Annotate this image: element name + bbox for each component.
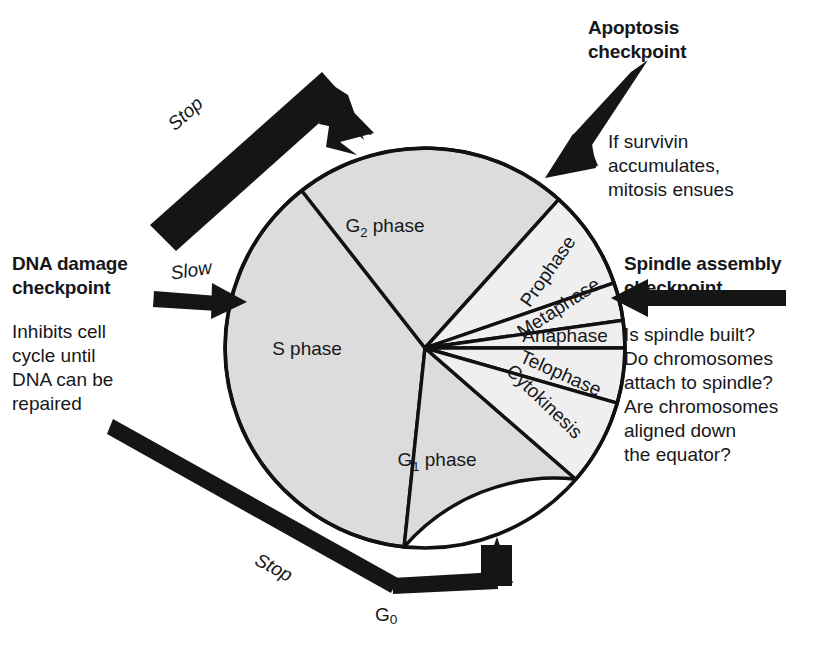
- apoptosis-checkpoint-body: If survivin accumulates, mitosis ensues: [608, 130, 734, 202]
- dna-damage-checkpoint-title: DNA damage checkpoint: [12, 252, 128, 300]
- cell-cycle-figure: G2 phase S phase G1 phase Prophase Metap…: [0, 0, 830, 653]
- spindle-assembly-checkpoint-body: Is spindle built? Do chromosomes attach …: [624, 323, 778, 467]
- spindle-assembly-checkpoint-title: Spindle assembly checkpoint: [624, 252, 781, 300]
- apoptosis-checkpoint-title: Apoptosis checkpoint: [588, 16, 686, 64]
- g0-letter: G: [375, 604, 390, 625]
- arrow-label-g0: G0: [375, 603, 397, 628]
- g0-subscript: 0: [390, 612, 398, 627]
- pie-label-anaphase: Anaphase: [522, 325, 608, 346]
- pie-label-s-phase: S phase: [272, 338, 342, 359]
- dna-damage-checkpoint-body: Inhibits cell cycle until DNA can be rep…: [12, 320, 113, 416]
